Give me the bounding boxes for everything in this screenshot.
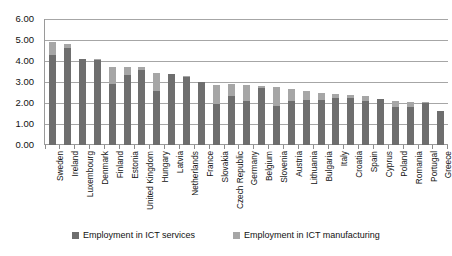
bar-column	[388, 19, 403, 145]
bar-column	[343, 19, 358, 145]
y-axis-tick-label: 3.00	[16, 77, 35, 87]
bar-column	[194, 19, 209, 145]
bar-column	[45, 19, 60, 145]
y-axis-tick-label: 1.00	[16, 119, 35, 129]
bar-column	[224, 19, 239, 145]
x-axis-label-cell: Latvia	[164, 151, 179, 223]
bar-segment-services	[213, 104, 220, 145]
x-axis-tick	[164, 145, 179, 149]
stacked-bar	[377, 99, 384, 145]
x-axis-tick	[254, 145, 269, 149]
bar-column	[75, 19, 90, 145]
stacked-bar	[437, 111, 444, 145]
bar-segment-services	[79, 59, 86, 145]
x-axis-tick	[90, 145, 105, 149]
legend-swatch-icon-services	[72, 232, 79, 239]
x-axis-label-cell: Portugal	[418, 151, 433, 223]
stacked-bar	[79, 59, 86, 145]
x-axis-label-cell: Bulgaria	[314, 151, 329, 223]
legend-label-services: Employment in ICT services	[83, 230, 195, 240]
x-axis-tick	[358, 145, 373, 149]
bar-segment-services	[109, 84, 116, 145]
stacked-bar	[273, 87, 280, 145]
stacked-bar	[228, 84, 235, 145]
stacked-bar	[332, 94, 339, 145]
y-axis-tick-label: 2.00	[16, 98, 35, 108]
y-axis-tick-label: 0.00	[16, 140, 35, 150]
stacked-bar	[258, 86, 265, 145]
bar-segment-manufacturing	[228, 84, 235, 96]
x-axis-label-cell: Estonia	[120, 151, 135, 223]
x-axis-tick	[179, 145, 194, 149]
bar-segment-services	[258, 88, 265, 145]
y-axis-tick-label: 4.00	[16, 56, 35, 66]
legend-swatch-icon-manufacturing	[233, 232, 240, 239]
x-axis-label-cell: Luxembourg	[75, 151, 90, 223]
bar-segment-services	[392, 107, 399, 145]
bar-segment-services	[124, 75, 131, 145]
x-axis-label-cell: Finland	[105, 151, 120, 223]
x-axis-label-cell: Slovakia	[209, 151, 224, 223]
x-axis-tick	[105, 145, 120, 149]
x-axis-label-cell: United Kingdom	[135, 151, 150, 223]
x-axis-label-cell: Germany	[239, 151, 254, 223]
stacked-bar	[49, 42, 56, 145]
stacked-bar	[243, 85, 250, 145]
x-axis-tick	[433, 145, 448, 149]
x-axis-tick	[314, 145, 329, 149]
x-axis-label-cell: Austria	[284, 151, 299, 223]
bar-column	[329, 19, 344, 145]
bar-segment-services	[273, 106, 280, 145]
stacked-bar	[303, 91, 310, 145]
bar-column	[299, 19, 314, 145]
bar-column	[149, 19, 164, 145]
x-axis-tick	[60, 145, 75, 149]
bar-segment-services	[153, 91, 160, 145]
x-axis-tick	[269, 145, 284, 149]
ict-employment-stacked-bar-chart: 0.001.002.003.004.005.006.00 SwedenIrela…	[0, 0, 452, 256]
bar-segment-manufacturing	[124, 67, 131, 74]
x-axis-label-cell: Hungary	[149, 151, 164, 223]
x-axis-tick	[284, 145, 299, 149]
x-axis-tick	[239, 145, 254, 149]
bar-segment-manufacturing	[243, 85, 250, 101]
stacked-bar	[288, 89, 295, 145]
x-axis-tick	[224, 145, 239, 149]
stacked-bar	[318, 93, 325, 145]
x-axis-tick	[373, 145, 388, 149]
x-axis-tick	[418, 145, 433, 149]
bar-column	[433, 19, 448, 145]
x-axis-label-cell: Poland	[388, 151, 403, 223]
x-axis-category-label: Greece	[445, 151, 452, 178]
x-axis-tick	[194, 145, 209, 149]
y-axis-tick-label: 6.00	[16, 14, 35, 24]
bar-segment-services	[49, 55, 56, 145]
bar-segment-manufacturing	[109, 67, 116, 84]
x-axis-label-cell: Slovenia	[269, 151, 284, 223]
bar-column	[179, 19, 194, 145]
bar-segment-services	[437, 111, 444, 145]
x-axis-label-cell: Ireland	[60, 151, 75, 223]
bar-segment-services	[407, 107, 414, 145]
bar-segment-manufacturing	[288, 89, 295, 101]
stacked-bar	[138, 67, 145, 145]
bar-column	[90, 19, 105, 145]
stacked-bar	[198, 82, 205, 145]
stacked-bar	[124, 67, 131, 145]
stacked-bar	[183, 76, 190, 145]
stacked-bar	[94, 59, 101, 145]
bar-segment-services	[288, 101, 295, 145]
x-axis-ticks	[45, 145, 448, 149]
bar-segment-services	[332, 98, 339, 145]
bar-segment-manufacturing	[303, 91, 310, 99]
x-axis-label-cell: Greece	[433, 151, 448, 223]
bar-segment-services	[377, 99, 384, 145]
x-axis-tick	[149, 145, 164, 149]
bar-column	[120, 19, 135, 145]
x-axis-label-cell: Denmark	[90, 151, 105, 223]
legend-item-ict-services: Employment in ICT services	[72, 230, 195, 240]
bar-column	[60, 19, 75, 145]
stacked-bar	[109, 67, 116, 145]
stacked-bar	[153, 73, 160, 145]
bar-column	[358, 19, 373, 145]
